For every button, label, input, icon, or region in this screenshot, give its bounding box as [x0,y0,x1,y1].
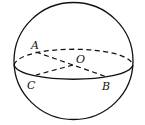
segment-AB [36,52,107,77]
label-A: A [30,39,39,52]
sphere-outline [14,3,133,120]
label-B: B [101,80,110,93]
equator-front-solid [14,65,133,79]
label-O: O [76,53,85,66]
segment-OC [36,65,73,75]
sphere-diagram: A O C B [0,0,145,125]
label-C: C [27,79,36,92]
